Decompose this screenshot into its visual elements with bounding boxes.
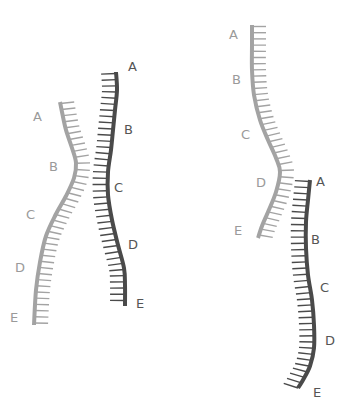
base-tick <box>261 229 275 232</box>
base-tick <box>94 203 109 204</box>
base-tick <box>98 134 113 135</box>
right-light-strand <box>252 25 294 238</box>
base-tick <box>295 181 310 182</box>
base-tick <box>268 212 282 215</box>
base-tick <box>271 144 285 147</box>
base-tick <box>258 111 272 113</box>
base-tick <box>280 170 294 171</box>
base-tick <box>103 245 118 247</box>
base-tick <box>297 299 312 300</box>
base-tick <box>266 218 280 221</box>
right-light-label-e: E <box>234 224 242 237</box>
base-tick <box>266 133 280 136</box>
base-tick <box>102 239 117 241</box>
base-tick <box>40 261 54 262</box>
right-light-label-b: B <box>232 73 241 86</box>
base-tick <box>100 110 115 111</box>
left-light-label-c: C <box>26 208 35 221</box>
base-tick <box>101 73 116 74</box>
base-tick <box>270 206 284 209</box>
base-tick <box>76 170 90 171</box>
base-tick <box>93 197 108 198</box>
base-tick <box>277 189 291 191</box>
left-dark-label-d: D <box>128 238 138 251</box>
base-tick <box>96 153 111 154</box>
base-tick <box>75 155 89 157</box>
base-tick <box>291 218 306 219</box>
base-tick <box>102 80 117 81</box>
base-tick <box>276 156 290 159</box>
base-tick <box>294 193 309 194</box>
base-tick <box>290 373 304 377</box>
base-tick <box>263 223 277 226</box>
base-tick <box>293 199 308 200</box>
left-light-label-d: D <box>15 261 25 274</box>
base-tick <box>75 176 89 178</box>
left-dark-label-a: A <box>128 60 137 73</box>
base-tick <box>69 137 83 140</box>
base-tick <box>275 195 289 198</box>
left-light-label-a: A <box>33 110 42 123</box>
base-tick <box>254 93 268 94</box>
base-tick <box>269 139 283 142</box>
base-tick <box>253 82 267 83</box>
right-dark-label-d: D <box>325 334 335 347</box>
base-tick <box>100 233 115 235</box>
right-light-label-d: D <box>256 176 266 189</box>
dna-strand-diagram <box>0 0 348 411</box>
right-light-label-c: C <box>241 128 250 141</box>
base-tick <box>99 122 114 123</box>
base-tick <box>67 131 81 133</box>
base-tick <box>38 274 52 275</box>
base-tick <box>39 267 53 268</box>
base-tick <box>101 97 116 98</box>
base-tick <box>273 201 287 204</box>
base-tick <box>46 237 60 239</box>
base-tick <box>279 162 293 165</box>
base-tick <box>297 358 312 360</box>
base-tick <box>68 193 82 197</box>
base-tick <box>255 99 269 101</box>
left-dark-label-e: E <box>136 297 144 310</box>
base-tick <box>292 262 307 263</box>
base-tick <box>56 215 70 219</box>
right-dark-label-c: C <box>320 281 329 294</box>
base-tick <box>287 378 301 382</box>
base-tick <box>61 108 75 110</box>
base-tick <box>298 353 313 355</box>
base-tick <box>53 220 67 224</box>
base-tick <box>36 292 50 293</box>
base-tick <box>70 187 84 190</box>
base-tick <box>108 263 123 265</box>
base-tick <box>101 103 116 104</box>
right-dark-label-e: E <box>313 386 321 399</box>
base-tick <box>60 102 74 103</box>
base-tick <box>293 368 308 372</box>
base-tick <box>292 205 307 206</box>
base-tick <box>96 215 111 217</box>
base-tick <box>299 317 314 318</box>
base-tick <box>50 226 64 229</box>
base-tick <box>293 274 308 275</box>
base-tick <box>107 257 122 259</box>
base-tick <box>299 347 314 348</box>
left-strand-pair <box>34 72 125 325</box>
base-tick <box>97 221 112 223</box>
base-tick <box>95 159 110 160</box>
base-tick <box>278 183 292 185</box>
base-tick <box>298 311 313 312</box>
base-tick <box>43 249 57 251</box>
base-tick <box>294 280 309 281</box>
base-tick <box>98 128 113 129</box>
right-dark-label-b: B <box>311 233 320 246</box>
base-tick <box>262 122 276 125</box>
base-tick <box>294 187 309 188</box>
base-tick <box>259 235 273 237</box>
base-tick <box>73 181 87 184</box>
base-tick <box>274 150 288 153</box>
right-dark-strand <box>284 180 315 388</box>
base-tick <box>99 227 114 229</box>
base-tick <box>109 269 124 270</box>
base-tick <box>36 286 50 287</box>
base-tick <box>41 255 55 256</box>
